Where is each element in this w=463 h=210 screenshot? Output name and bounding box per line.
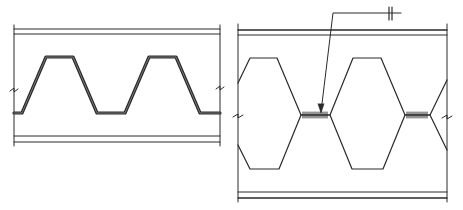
weld-leader-annotation	[318, 7, 401, 113]
left-panel-trapezoidal-web	[10, 25, 224, 146]
break-mark-icon	[233, 114, 243, 118]
break-mark-icon	[10, 88, 18, 92]
hexagon-opening	[330, 58, 405, 169]
hexagon-opening-partial-left	[238, 58, 301, 169]
beam-diagram	[0, 0, 463, 210]
break-mark-icon	[442, 115, 452, 119]
right-panel-hexagonal-web	[233, 7, 452, 202]
trapezoidal-web-profile	[14, 57, 220, 113]
leader-line	[321, 13, 401, 112]
diagram-canvas	[0, 0, 463, 210]
weld-seam	[405, 112, 430, 118]
break-mark-icon	[216, 86, 224, 90]
weld-seam	[301, 112, 330, 118]
hexagon-opening-partial-right	[430, 80, 447, 150]
